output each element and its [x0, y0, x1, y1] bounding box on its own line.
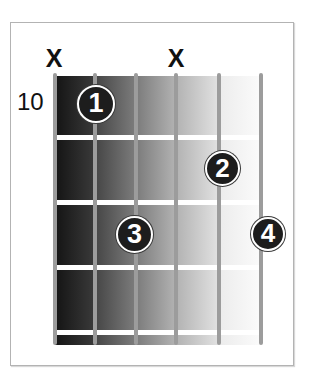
finger-marker-3: 3 — [116, 216, 153, 253]
fretboard-column — [136, 76, 176, 345]
string-1 — [53, 73, 57, 345]
string-5 — [217, 73, 221, 345]
fret-line-1 — [55, 135, 261, 140]
start-fret-label: 10 — [17, 89, 44, 115]
finger-marker-1: 1 — [77, 85, 115, 123]
fret-line-3 — [55, 265, 261, 270]
muted-string-4-marker: X — [164, 46, 188, 71]
string-3 — [134, 73, 138, 345]
muted-string-1-marker: X — [42, 46, 66, 71]
finger-marker-2: 2 — [205, 151, 240, 186]
fret-line-2 — [55, 200, 261, 205]
string-6 — [259, 73, 263, 345]
finger-marker-4: 4 — [251, 217, 285, 251]
fretboard-column — [219, 76, 261, 345]
fret-line-4 — [55, 330, 261, 335]
fretboard-column — [176, 76, 219, 345]
string-4 — [174, 73, 178, 345]
